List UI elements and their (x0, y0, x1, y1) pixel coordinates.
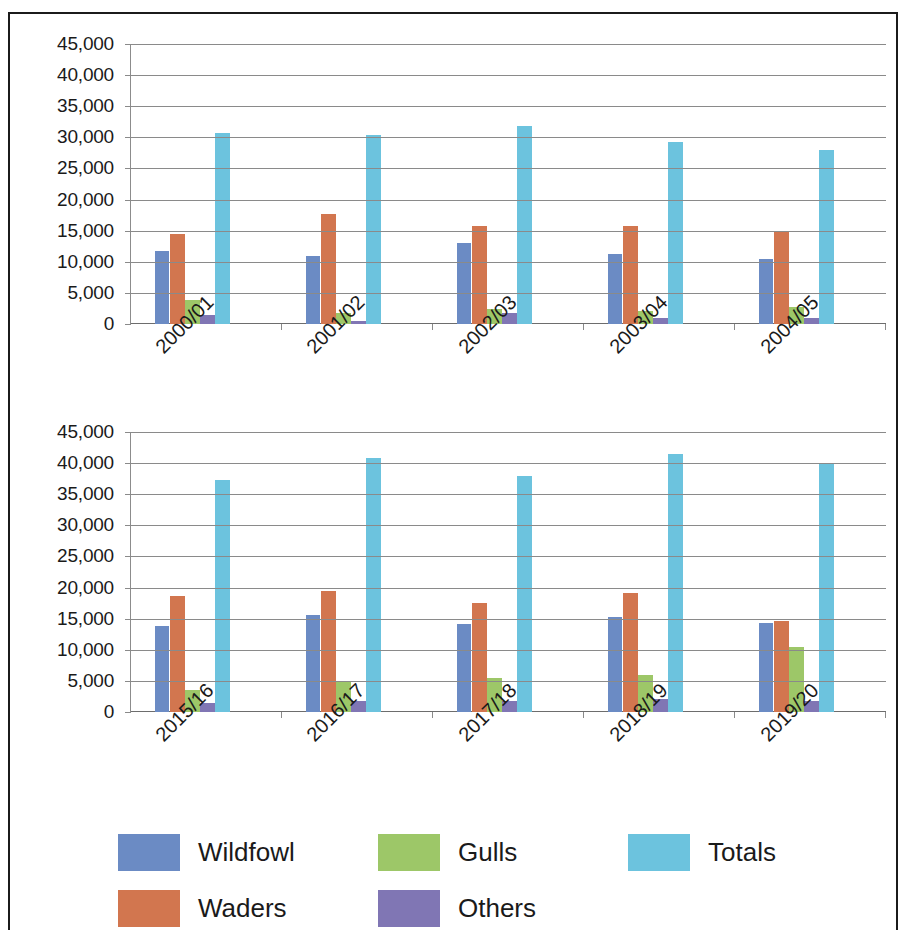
bar-totals-2000-01 (215, 133, 229, 324)
bar-totals-2016-17 (366, 458, 380, 712)
y-tickmark (125, 588, 131, 589)
bar-groups-chart-2 (131, 432, 886, 712)
plot-area-chart-1 (130, 44, 886, 324)
legend-label: Others (458, 893, 536, 924)
x-label-cell: 2015/16 (130, 716, 281, 812)
x-label-cell: 2000/01 (130, 328, 281, 424)
y-tickmark (125, 712, 131, 713)
y-tickmark (125, 324, 131, 325)
y-tick-label: 5,000 (67, 670, 114, 692)
bar-wildfowl-2004-05 (759, 259, 773, 324)
y-tickmark (125, 681, 131, 682)
bar-wildfowl-2001-02 (306, 256, 320, 324)
bar-group (433, 44, 584, 324)
y-tickmark (125, 293, 131, 294)
bar-totals-2001-02 (366, 135, 380, 324)
x-label-cell: 2016/17 (281, 716, 432, 812)
bar-totals-2004-05 (819, 150, 833, 324)
legend-swatch-gulls (378, 834, 440, 871)
gridline (131, 588, 886, 589)
y-tick-label: 15,000 (57, 608, 114, 630)
y-tick-label: 25,000 (57, 545, 114, 567)
y-tickmark (125, 650, 131, 651)
plot-area-chart-2 (130, 432, 886, 712)
bar-totals-2015-16 (215, 480, 229, 712)
gridline (131, 525, 886, 526)
gridline (131, 262, 886, 263)
y-tickmark (125, 432, 131, 433)
legend-swatch-others (378, 890, 440, 927)
bar-waders-2002-03 (472, 226, 486, 324)
bar-wildfowl-2019-20 (759, 623, 773, 712)
bar-wildfowl-2003-04 (608, 254, 622, 324)
bar-group (282, 432, 433, 712)
legend-item-wildfowl: Wildfowl (118, 834, 378, 871)
bar-group (735, 432, 886, 712)
bar-group (282, 44, 433, 324)
bar-waders-2018-19 (623, 593, 637, 712)
bar-totals-2018-19 (668, 454, 682, 712)
x-label-cell: 2001/02 (281, 328, 432, 424)
y-tick-label: 15,000 (57, 220, 114, 242)
bar-chart-2000s: 45,00040,00035,00030,00025,00020,00015,0… (26, 44, 886, 344)
y-tick-label: 10,000 (57, 639, 114, 661)
bar-waders-2015-16 (170, 596, 184, 712)
y-tick-label: 5,000 (67, 282, 114, 304)
figure-sheet: 45,00040,00035,00030,00025,00020,00015,0… (0, 0, 909, 932)
gridline (131, 200, 886, 201)
legend-item-totals: Totals (628, 834, 828, 871)
bar-chart-2010s: 45,00040,00035,00030,00025,00020,00015,0… (26, 432, 886, 732)
bar-groups-chart-1 (131, 44, 886, 324)
legend-item-gulls: Gulls (378, 834, 628, 871)
legend-swatch-totals (628, 834, 690, 871)
bar-group (584, 44, 735, 324)
y-tickmark (125, 168, 131, 169)
x-axis-labels-chart-1: 2000/012001/022002/032003/042004/05 (130, 328, 886, 424)
gridline (131, 44, 886, 45)
y-tickmark (125, 106, 131, 107)
legend-swatch-wildfowl (118, 834, 180, 871)
y-tick-label: 45,000 (57, 33, 114, 55)
gridline (131, 432, 886, 433)
y-tickmark (125, 525, 131, 526)
y-tick-label: 40,000 (57, 452, 114, 474)
gridline (131, 619, 886, 620)
y-tick-label: 20,000 (57, 189, 114, 211)
gridline (131, 137, 886, 138)
x-label-cell: 2019/20 (735, 716, 886, 812)
y-tickmark (125, 231, 131, 232)
y-tickmark (125, 200, 131, 201)
y-tick-label: 30,000 (57, 126, 114, 148)
bar-totals-2017-18 (517, 476, 531, 712)
x-label-cell: 2017/18 (432, 716, 583, 812)
bar-wildfowl-2017-18 (457, 624, 471, 712)
y-axis-chart-1: 45,00040,00035,00030,00025,00020,00015,0… (26, 44, 122, 324)
bar-waders-2016-17 (321, 591, 335, 712)
y-tickmark (125, 44, 131, 45)
y-tickmark (125, 75, 131, 76)
bar-totals-2002-03 (517, 126, 531, 324)
bar-group (433, 432, 584, 712)
y-tick-label: 10,000 (57, 251, 114, 273)
x-label-cell: 2003/04 (584, 328, 735, 424)
gridline (131, 463, 886, 464)
bar-wildfowl-2016-17 (306, 615, 320, 712)
y-tick-label: 0 (104, 313, 114, 335)
legend-label: Gulls (458, 837, 517, 868)
y-tick-label: 35,000 (57, 483, 114, 505)
x-label-cell: 2018/19 (584, 716, 735, 812)
legend-label: Totals (708, 837, 776, 868)
chart-legend: WildfowlGullsTotalsWadersOthers (118, 824, 818, 932)
bar-group (131, 432, 282, 712)
legend-label: Wildfowl (198, 837, 295, 868)
bar-waders-2003-04 (623, 226, 637, 324)
gridline (131, 168, 886, 169)
bar-group (131, 44, 282, 324)
y-tickmark (125, 137, 131, 138)
gridline (131, 556, 886, 557)
y-tick-label: 35,000 (57, 95, 114, 117)
gridline (131, 650, 886, 651)
y-tick-label: 45,000 (57, 421, 114, 443)
x-axis-labels-chart-2: 2015/162016/172017/182018/192019/20 (130, 716, 886, 812)
bar-wildfowl-2015-16 (155, 626, 169, 712)
